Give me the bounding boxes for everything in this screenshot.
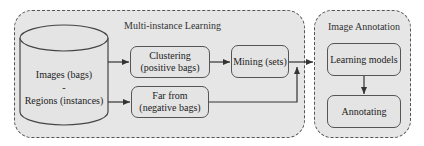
database-label-line1: Images (bags) — [19, 68, 109, 81]
learning-models-label: Learning models — [330, 54, 397, 66]
clustering-node: Clustering (positive bags) — [130, 46, 210, 78]
annotating-node: Annotating — [327, 95, 401, 128]
far-from-label: Far from — [152, 90, 187, 102]
clustering-sublabel: (positive bags) — [140, 62, 199, 74]
clustering-label: Clustering — [149, 50, 191, 62]
database-label: Images (bags) - Regions (instances) — [19, 68, 109, 107]
mining-node: Mining (sets) — [231, 45, 289, 78]
learning-models-node: Learning models — [327, 43, 401, 76]
far-from-node: Far from (negative bags) — [131, 86, 209, 118]
far-from-sublabel: (negative bags) — [139, 102, 200, 114]
database-label-line2: - — [19, 81, 109, 94]
mining-label: Mining (sets) — [233, 56, 287, 68]
database-label-line3: Regions (instances) — [19, 94, 109, 107]
annotating-label: Annotating — [342, 106, 387, 118]
